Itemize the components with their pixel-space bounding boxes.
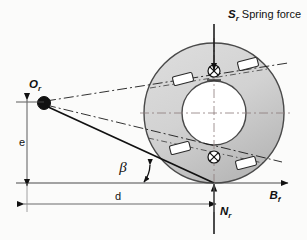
spring-force-text: Spring force [242,8,301,20]
normal-force-subscript: r [228,211,232,220]
beta-angle-arc [144,165,150,182]
bearing-force-subscript: f [278,195,282,204]
normal-force-label: Nr [220,205,232,220]
free-body-diagram: SrSpring force Or e d β Bf Nr [0,0,307,240]
diagram-canvas: SrSpring force Or e d β Bf Nr [0,0,307,240]
spring-force-subscript: r [236,14,240,23]
dimension-e-label: e [19,136,25,148]
dimension-d-label: d [115,190,121,202]
beta-angle-label: β [118,159,127,175]
origin-subscript: r [38,84,42,93]
bearing-force-label: Bf [270,189,282,204]
crossed-circle-lower-icon [208,151,220,163]
bearing-force-symbol: B [270,189,278,201]
spring-force-label: SrSpring force [228,8,301,23]
origin-label: Or [29,78,42,93]
origin-symbol: O [29,78,38,90]
